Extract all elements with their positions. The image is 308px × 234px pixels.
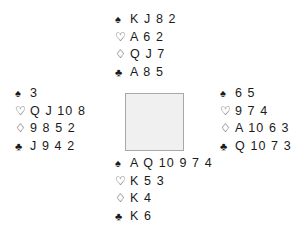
south-spades-row: ♠ A Q 10 9 7 4 — [115, 155, 213, 173]
spade-icon: ♠ — [115, 155, 130, 173]
south-clubs-ranks: K 6 — [130, 208, 152, 226]
heart-icon: ♡ — [220, 103, 235, 121]
heart-icon: ♡ — [115, 173, 130, 191]
club-icon: ♣ — [15, 138, 30, 156]
east-hearts-ranks: 9 7 4 — [235, 103, 268, 121]
diamond-icon: ♢ — [115, 46, 130, 64]
west-hearts-ranks: Q J 10 8 — [30, 103, 86, 121]
north-spades-ranks: K J 8 2 — [130, 11, 177, 29]
north-clubs-row: ♣ A 8 5 — [115, 64, 177, 82]
heart-icon: ♡ — [115, 29, 130, 47]
south-clubs-row: ♣ K 6 — [115, 208, 213, 226]
south-spades-ranks: A Q 10 9 7 4 — [130, 155, 213, 173]
west-clubs-ranks: J 9 4 2 — [30, 138, 75, 156]
north-hearts-ranks: A 6 2 — [130, 29, 164, 47]
diamond-icon: ♢ — [220, 120, 235, 138]
north-diamonds-ranks: Q J 7 — [130, 46, 165, 64]
south-hearts-ranks: K 5 3 — [130, 173, 165, 191]
west-spades-ranks: 3 — [30, 85, 38, 103]
spade-icon: ♠ — [115, 11, 130, 29]
bridge-hand-diagram: ♠ K J 8 2 ♡ A 6 2 ♢ Q J 7 ♣ A 8 5 ♠ 3 ♡ … — [0, 0, 308, 234]
hand-south: ♠ A Q 10 9 7 4 ♡ K 5 3 ♢ K 4 ♣ K 6 — [115, 155, 213, 225]
north-spades-row: ♠ K J 8 2 — [115, 11, 177, 29]
club-icon: ♣ — [115, 208, 130, 226]
heart-icon: ♡ — [15, 103, 30, 121]
north-clubs-ranks: A 8 5 — [130, 64, 164, 82]
south-diamonds-ranks: K 4 — [130, 190, 152, 208]
diamond-icon: ♢ — [15, 120, 30, 138]
east-spades-ranks: 6 5 — [235, 85, 256, 103]
east-spades-row: ♠ 6 5 — [220, 85, 292, 103]
east-diamonds-row: ♢ A 10 6 3 — [220, 120, 292, 138]
spade-icon: ♠ — [220, 85, 235, 103]
club-icon: ♣ — [220, 138, 235, 156]
west-clubs-row: ♣ J 9 4 2 — [15, 138, 86, 156]
center-compass-square — [125, 93, 184, 151]
south-diamonds-row: ♢ K 4 — [115, 190, 213, 208]
north-diamonds-row: ♢ Q J 7 — [115, 46, 177, 64]
east-clubs-ranks: Q 10 7 3 — [235, 138, 292, 156]
hand-east: ♠ 6 5 ♡ 9 7 4 ♢ A 10 6 3 ♣ Q 10 7 3 — [220, 85, 292, 155]
east-clubs-row: ♣ Q 10 7 3 — [220, 138, 292, 156]
club-icon: ♣ — [115, 64, 130, 82]
south-hearts-row: ♡ K 5 3 — [115, 173, 213, 191]
spade-icon: ♠ — [15, 85, 30, 103]
east-hearts-row: ♡ 9 7 4 — [220, 103, 292, 121]
diamond-icon: ♢ — [115, 190, 130, 208]
west-diamonds-ranks: 9 8 5 2 — [30, 120, 76, 138]
north-hearts-row: ♡ A 6 2 — [115, 29, 177, 47]
west-spades-row: ♠ 3 — [15, 85, 86, 103]
east-diamonds-ranks: A 10 6 3 — [235, 120, 290, 138]
west-diamonds-row: ♢ 9 8 5 2 — [15, 120, 86, 138]
hand-west: ♠ 3 ♡ Q J 10 8 ♢ 9 8 5 2 ♣ J 9 4 2 — [15, 85, 86, 155]
hand-north: ♠ K J 8 2 ♡ A 6 2 ♢ Q J 7 ♣ A 8 5 — [115, 11, 177, 81]
west-hearts-row: ♡ Q J 10 8 — [15, 103, 86, 121]
